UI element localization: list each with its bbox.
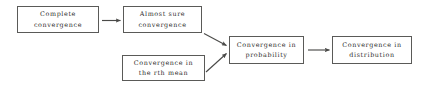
node-rth-mean-convergence: Convergence in the rth mean xyxy=(122,55,205,81)
node-rth-mean-convergence-label: Convergence in the rth mean xyxy=(134,58,194,79)
convergence-relations-diagram: Complete convergence Almost sure converg… xyxy=(0,0,425,89)
node-complete-convergence: Complete convergence xyxy=(17,6,99,33)
arrow-almost-sure-to-probability xyxy=(204,34,227,46)
node-distribution-convergence-label: Convergence in distribution xyxy=(342,40,402,61)
node-probability-convergence-label: Convergence in probability xyxy=(237,40,297,61)
node-distribution-convergence: Convergence in distribution xyxy=(332,36,412,64)
node-probability-convergence: Convergence in probability xyxy=(229,36,304,64)
node-almost-sure-convergence-label: Almost sure convergence xyxy=(138,9,186,30)
node-almost-sure-convergence: Almost sure convergence xyxy=(123,6,202,33)
node-complete-convergence-label: Complete convergence xyxy=(34,9,82,30)
arrow-rth-mean-to-probability xyxy=(206,54,227,73)
